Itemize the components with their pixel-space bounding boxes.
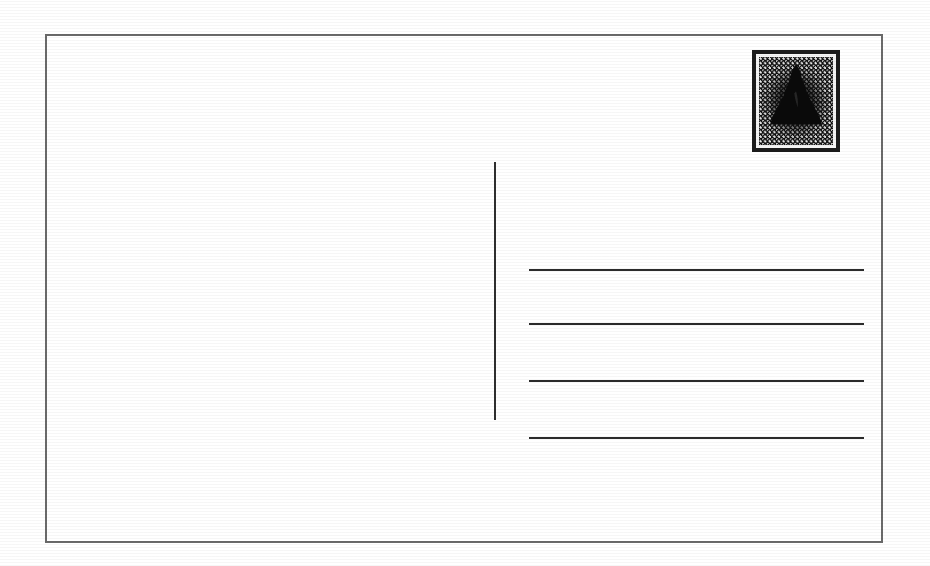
stamp-inner-frame <box>756 54 836 148</box>
address-line-4-value <box>529 437 530 438</box>
divider-label: Vertical divider between message area an… <box>494 162 495 163</box>
message-area[interactable]: Message area <box>47 36 497 541</box>
document-title: Blank Postcard Back Template <box>0 0 1 1</box>
vertical-divider-line: Vertical divider between message area an… <box>494 162 496 420</box>
address-line-3-value <box>529 380 530 381</box>
address-line-3[interactable] <box>529 380 864 382</box>
address-line-1[interactable] <box>529 269 864 271</box>
address-line-4[interactable] <box>529 437 864 439</box>
address-line-1-value <box>529 269 530 270</box>
stamp-tree-silhouette-icon <box>768 63 824 133</box>
address-line-2[interactable] <box>529 323 864 325</box>
postcard-canvas: Blank Postcard Back Template Message are… <box>0 0 930 566</box>
address-area-label: Address area <box>497 36 498 37</box>
postage-stamp-icon <box>752 50 840 152</box>
address-line-2-value <box>529 323 530 324</box>
message-area-label: Message area <box>47 36 48 37</box>
message-area-text <box>47 36 48 37</box>
